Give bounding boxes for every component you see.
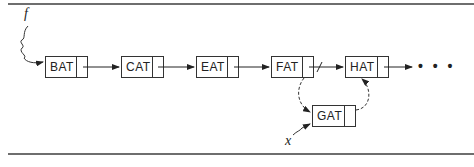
head-pointer-arrow [21,26,43,63]
link-gat-hat-dashed [356,79,369,110]
new-node-pointer-arrow [293,124,310,135]
diagram-canvas: f x BAT CAT EAT FAT HAT GAT • • • [0,0,474,167]
link-fat-gat-dashed [299,78,310,112]
edges-overlay [0,0,474,167]
